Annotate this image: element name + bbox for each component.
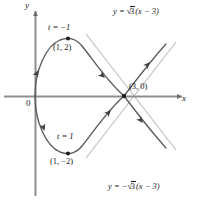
tangent-upper-prefix: y = — [113, 6, 127, 16]
tangent-line-upper-equation: y = √3(x − 3) — [113, 6, 159, 16]
point-label-1-neg2: (1, −2) — [50, 157, 73, 166]
tangent-line-lower-equation: y = −√3(x − 3) — [108, 181, 160, 191]
tangent-lower-prefix: y = − — [108, 181, 128, 191]
curve-lower-lobe — [35, 96, 124, 154]
origin-label: 0 — [26, 99, 31, 108]
tangent-line-positive-slope — [86, 42, 176, 158]
direction-arrow-branch-lower-right — [136, 116, 145, 125]
point-marker-1-2 — [66, 36, 70, 40]
x-axis-label: x — [182, 94, 186, 103]
point-marker-3-0 — [122, 94, 126, 98]
point-label-3-0: (3, 0) — [129, 82, 147, 91]
parameter-label-upper: t = −1 — [48, 23, 70, 32]
tangent-line-negative-slope — [86, 34, 176, 150]
tangent-lower-suffix: (x − 3) — [136, 181, 160, 191]
curve-branch-lower-right — [124, 96, 166, 148]
curve-upper-lobe — [35, 38, 124, 96]
y-axis-label: y — [25, 1, 29, 10]
tangent-upper-suffix: (x − 3) — [135, 6, 159, 16]
parameter-label-lower: t = 1 — [57, 132, 74, 141]
point-label-1-2: (1, 2) — [53, 43, 71, 52]
parametric-curve-figure: y x 0 t = −1 (1, 2) t = 1 (1, −2) (3, 0)… — [0, 0, 197, 200]
point-marker-1-neg2 — [66, 151, 70, 155]
